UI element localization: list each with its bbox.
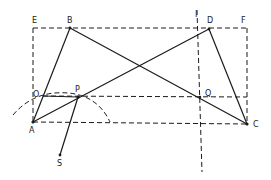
label-q: Q [205, 89, 211, 98]
point-s [59, 154, 62, 157]
label-d: D [207, 16, 213, 25]
label-f: F [241, 16, 246, 25]
solid-line-b-c [70, 28, 247, 124]
label-i: I [195, 10, 197, 19]
point-p [76, 95, 79, 98]
label-s: S [57, 159, 62, 168]
point-d [208, 28, 211, 31]
point-a [31, 120, 34, 123]
solid-line-o-p [43, 96, 78, 97]
solid-line-a-d [33, 29, 209, 122]
point-q [199, 96, 201, 98]
label-o: O [33, 90, 39, 99]
label-p: P [75, 85, 80, 94]
label-a: A [29, 126, 35, 135]
dashed-line-a-c [33, 122, 247, 124]
point-b [69, 27, 72, 30]
point-c [245, 122, 248, 125]
geometry-diagram: E B I D F O P Q A C S [0, 0, 271, 180]
label-e: E [32, 16, 37, 25]
solid-line-d-c [209, 29, 247, 124]
solid-line-a-b [33, 28, 70, 122]
label-b: B [67, 16, 73, 25]
label-c: C [253, 120, 259, 129]
